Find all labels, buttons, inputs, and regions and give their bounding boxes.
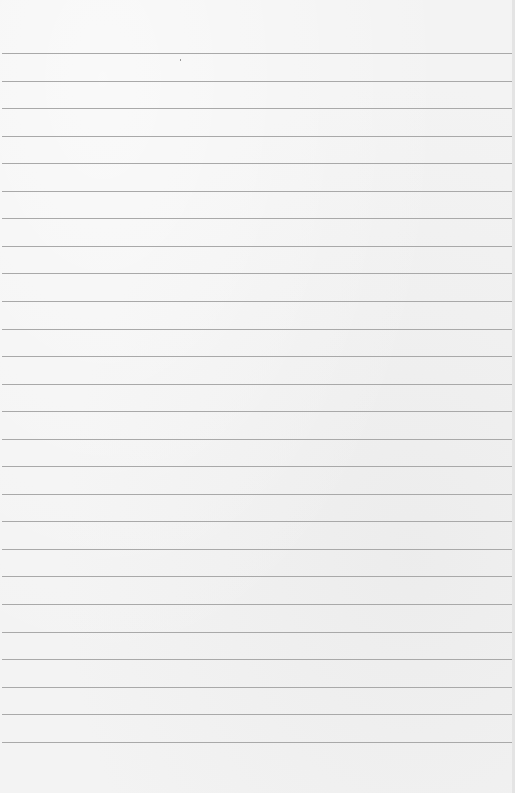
ruled-line (2, 53, 512, 54)
ruled-line (2, 246, 512, 247)
ruled-line (2, 273, 512, 274)
ruled-line (2, 136, 512, 137)
ruled-line (2, 163, 512, 164)
ruled-line (2, 521, 512, 522)
ruled-line (2, 604, 512, 605)
ruled-line (2, 191, 512, 192)
ruled-line (2, 659, 512, 660)
lined-paper-sheet (0, 0, 515, 793)
ruled-line (2, 384, 512, 385)
ruled-line (2, 632, 512, 633)
ruled-line (2, 356, 512, 357)
ruled-line (2, 494, 512, 495)
ruled-line (2, 301, 512, 302)
ruled-line (2, 439, 512, 440)
ruled-line (2, 549, 512, 550)
paper-speck (180, 59, 181, 61)
ruled-line (2, 576, 512, 577)
ruled-line (2, 466, 512, 467)
ruled-line (2, 687, 512, 688)
ruled-line (2, 218, 512, 219)
ruled-line (2, 411, 512, 412)
ruled-line (2, 714, 512, 715)
ruled-line (2, 329, 512, 330)
ruled-line (2, 108, 512, 109)
ruled-line (2, 742, 512, 743)
ruled-line (2, 81, 512, 82)
